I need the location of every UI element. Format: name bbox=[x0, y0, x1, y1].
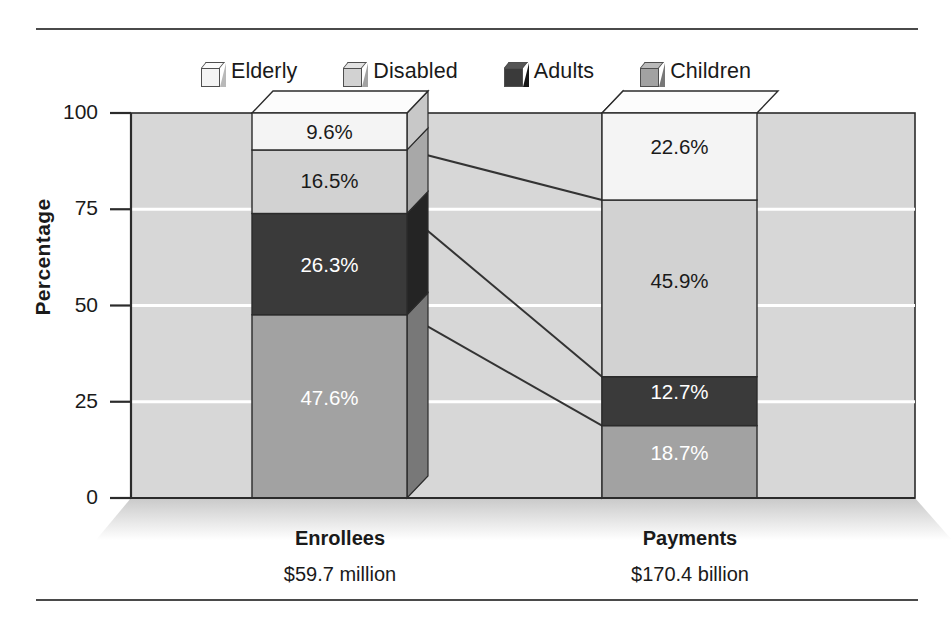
bar-payments-top-face bbox=[602, 91, 778, 113]
plot-floor bbox=[96, 498, 952, 540]
ytick-label-25: 25 bbox=[40, 389, 98, 413]
category-sublabel-enrollees: $59.7 million bbox=[245, 563, 435, 586]
y-axis bbox=[110, 113, 131, 498]
category-sublabel-payments: $170.4 billion bbox=[595, 563, 785, 586]
chart-plot-region: Percentage 100 75 50 25 0 9.6% 16.5% 26.… bbox=[0, 0, 952, 619]
segment-label-enrollees-disabled: 16.5% bbox=[252, 169, 407, 193]
bar-enrollees-top-face bbox=[252, 91, 428, 113]
segment-label-payments-children: 18.7% bbox=[602, 441, 757, 465]
category-label-enrollees: Enrollees bbox=[245, 527, 435, 550]
category-label-payments: Payments bbox=[595, 527, 785, 550]
ytick-label-50: 50 bbox=[40, 293, 98, 317]
ytick-label-100: 100 bbox=[40, 100, 98, 124]
segment-label-payments-adults: 12.7% bbox=[602, 380, 757, 404]
bar-enrollees[interactable] bbox=[252, 91, 428, 498]
segment-label-payments-elderly: 22.6% bbox=[602, 135, 757, 159]
plot-panel bbox=[131, 113, 915, 498]
ytick-label-0: 0 bbox=[40, 485, 98, 509]
chart-canvas bbox=[0, 0, 952, 619]
ytick-label-75: 75 bbox=[40, 196, 98, 220]
segment-label-payments-disabled: 45.9% bbox=[602, 269, 757, 293]
segment-label-enrollees-children: 47.6% bbox=[252, 386, 407, 410]
segment-label-enrollees-adults: 26.3% bbox=[252, 253, 407, 277]
bar-enrollees-side-faces bbox=[407, 91, 428, 498]
segment-label-enrollees-elderly: 9.6% bbox=[252, 120, 407, 144]
